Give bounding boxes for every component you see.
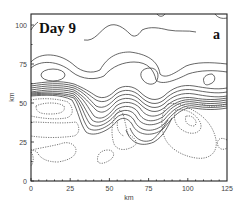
x-axis-title: km — [124, 194, 134, 201]
contour-lines — [31, 14, 227, 166]
plot-frame — [31, 14, 227, 181]
panel-label: a — [213, 27, 220, 42]
x-tick-label: 50 — [106, 185, 114, 192]
x-tick-label: 75 — [145, 185, 153, 192]
y-axis-title: km — [8, 92, 15, 102]
contour-figure: 0 25 50 75 100 125 0 25 50 75 100 km km … — [0, 0, 240, 209]
x-tick-label: 100 — [182, 185, 194, 192]
y-tick-label: 50 — [19, 100, 27, 107]
x-tick-label: 0 — [29, 185, 33, 192]
y-tick-label: 100 — [15, 22, 27, 29]
panel-title: Day 9 — [39, 20, 76, 36]
x-tick-label: 125 — [221, 185, 233, 192]
x-tick-label: 25 — [66, 185, 74, 192]
y-tick-label: 25 — [19, 139, 27, 146]
y-tick-label: 0 — [23, 178, 27, 185]
y-tick-label: 75 — [19, 61, 27, 68]
